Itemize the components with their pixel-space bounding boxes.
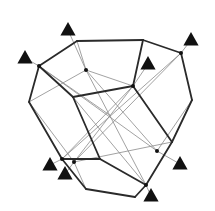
visible-edge: [86, 189, 135, 197]
vertex-dot: [155, 149, 159, 153]
visible-edge: [172, 100, 192, 142]
hidden-edge: [157, 100, 192, 151]
diagram-canvas: [0, 0, 215, 211]
vertex-dot: [37, 64, 41, 68]
triangle-marker-icon: [42, 157, 57, 171]
hidden-edge: [62, 53, 181, 159]
visible-edges: [29, 40, 192, 197]
triangle-marker-icon: [17, 50, 32, 64]
hidden-edge: [74, 53, 181, 162]
triangle-marker-icon: [143, 188, 158, 202]
hidden-edge: [39, 66, 111, 116]
visible-edge: [77, 40, 143, 41]
vertex-dots: [37, 51, 183, 187]
polyhedron-diagram: [0, 0, 215, 211]
triangle-marker-icon: [60, 22, 75, 36]
triangle-marker-icon: [140, 56, 155, 70]
visible-edge: [135, 185, 146, 197]
vertex-dot: [179, 51, 183, 55]
vertex-dot: [144, 183, 148, 187]
visible-edge: [143, 40, 181, 53]
vertex-dot: [84, 68, 88, 72]
vertex-dot: [60, 157, 64, 161]
visible-edge: [29, 66, 39, 102]
vertex-dot: [72, 160, 76, 164]
triangle-marker-icon: [183, 32, 198, 46]
visible-edge: [29, 102, 62, 159]
hidden-edge: [29, 102, 74, 162]
visible-edge: [181, 53, 192, 100]
hidden-edge: [29, 70, 86, 102]
triangle-marker-icon: [172, 156, 187, 170]
visible-edge: [39, 41, 77, 66]
hidden-edge: [77, 41, 86, 70]
leader-line: [68, 30, 86, 70]
visible-edge: [133, 86, 172, 142]
vertex-dot: [131, 84, 135, 88]
visible-edge: [39, 66, 73, 97]
